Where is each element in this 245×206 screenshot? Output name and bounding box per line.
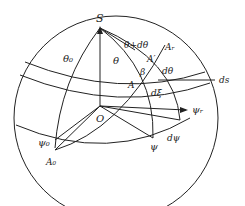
label-S: S bbox=[96, 12, 104, 25]
label-ds: ds bbox=[219, 75, 230, 85]
sphere-diagram: S O θ₀ θ θ+dθ Aᵣ A′ β dθ A ds dξ ψᵣ ψ dψ… bbox=[0, 0, 245, 206]
label-theta: θ bbox=[113, 55, 119, 66]
label-dpsi: dψ bbox=[167, 133, 181, 143]
sphere-outline bbox=[14, 16, 218, 206]
label-psi0: ψ₀ bbox=[38, 137, 50, 148]
label-A0: A₀ bbox=[45, 157, 56, 167]
label-dxi: dξ bbox=[151, 88, 163, 98]
label-A-prime: A′ bbox=[146, 54, 156, 64]
label-beta: β bbox=[139, 67, 145, 77]
label-O: O bbox=[96, 113, 104, 124]
radius-O-psi0 bbox=[55, 106, 100, 140]
label-psi: ψ bbox=[150, 141, 158, 152]
meridian-theta0 bbox=[55, 28, 100, 148]
label-theta-plus-dtheta: θ+dθ bbox=[124, 40, 149, 50]
label-dtheta: dθ bbox=[162, 66, 174, 76]
label-psi-r: ψᵣ bbox=[192, 104, 204, 115]
label-A-r: Aᵣ bbox=[164, 42, 175, 52]
label-theta0: θ₀ bbox=[63, 53, 73, 64]
arrow-psi-r bbox=[180, 107, 188, 113]
label-A: A bbox=[127, 80, 135, 90]
